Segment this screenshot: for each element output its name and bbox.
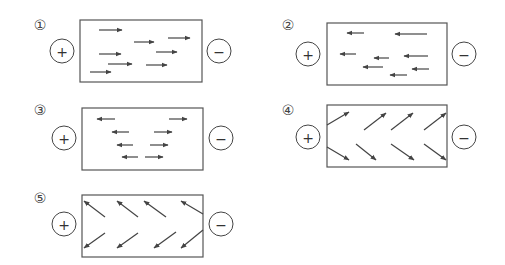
field-arrow-icon <box>327 147 349 160</box>
positive-terminal: + <box>296 125 320 149</box>
panel-1: ①+− <box>34 17 231 82</box>
plus-sign: + <box>56 44 68 60</box>
field-arrow-icon <box>424 113 446 130</box>
field-arrow-icon <box>364 113 386 130</box>
field-arrow-icon <box>391 144 414 160</box>
panel-4: ④+− <box>282 102 476 167</box>
conductor-box <box>82 195 203 257</box>
field-arrow-icon <box>117 201 138 217</box>
panel-number-label: ② <box>282 17 295 33</box>
field-arrow-icon <box>424 144 446 160</box>
field-arrow-icon <box>356 144 376 160</box>
conductor-box <box>80 20 202 82</box>
minus-sign: − <box>215 131 227 147</box>
panel-number-label: ① <box>34 17 47 33</box>
field-arrow-icon <box>154 232 176 248</box>
plus-sign: + <box>302 130 314 146</box>
field-arrow-icon <box>84 233 105 248</box>
positive-terminal: + <box>296 42 320 66</box>
panel-number-label: ④ <box>282 102 295 118</box>
minus-sign: − <box>458 130 470 146</box>
panel-3: ③+− <box>34 102 233 170</box>
conductor-box <box>82 108 203 170</box>
positive-terminal: + <box>52 126 76 150</box>
minus-sign: − <box>213 44 225 60</box>
diagram-canvas: ①+−②+−③+−④+−⑤+− <box>0 0 505 265</box>
field-arrow-icon <box>84 201 105 217</box>
plus-sign: + <box>58 217 70 233</box>
field-arrow-icon <box>327 112 349 125</box>
negative-terminal: − <box>209 212 233 236</box>
panel-number-label: ⑤ <box>34 190 47 206</box>
minus-sign: − <box>458 47 470 63</box>
field-arrow-icon <box>181 230 203 248</box>
panel-5: ⑤+− <box>34 190 233 257</box>
negative-terminal: − <box>209 126 233 150</box>
negative-terminal: − <box>452 42 476 66</box>
field-arrow-icon <box>117 233 138 248</box>
field-arrow-icon <box>391 113 413 130</box>
positive-terminal: + <box>52 212 76 236</box>
negative-terminal: − <box>207 39 231 63</box>
panel-2: ②+− <box>282 17 476 85</box>
panel-number-label: ③ <box>34 102 47 118</box>
plus-sign: + <box>302 47 314 63</box>
panels-group: ①+−②+−③+−④+−⑤+− <box>34 17 476 257</box>
negative-terminal: − <box>452 125 476 149</box>
plus-sign: + <box>58 131 70 147</box>
positive-terminal: + <box>50 39 74 63</box>
minus-sign: − <box>215 217 227 233</box>
field-arrow-icon <box>144 201 166 217</box>
field-arrow-icon <box>181 201 203 214</box>
